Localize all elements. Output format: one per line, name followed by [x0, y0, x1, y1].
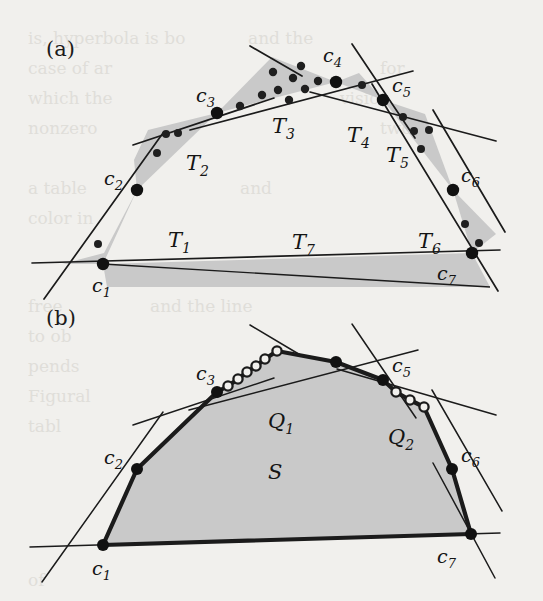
sample-point [410, 127, 418, 135]
vertex-label-c6: c6 [461, 164, 480, 190]
svg-text:and the: and the [248, 28, 313, 48]
region-label-T7: T7 [292, 230, 315, 258]
region-label-T6: T6 [418, 229, 441, 257]
region-label-T5: T5 [386, 143, 409, 171]
chain-point-q1 [242, 367, 251, 376]
sample-point [314, 77, 322, 85]
sample-point [301, 85, 309, 93]
sample-point [475, 239, 483, 247]
sample-point [461, 220, 469, 228]
sample-point [258, 91, 266, 99]
vertex-c5[interactable] [377, 94, 389, 106]
vertex-c1[interactable] [97, 258, 109, 270]
sample-point [285, 96, 293, 104]
sample-point [297, 62, 305, 70]
region-label-T3: T3 [272, 114, 295, 142]
svg-text:and the line: and the line [150, 296, 253, 316]
vertex-c7[interactable] [465, 528, 477, 540]
region-label-S: S [268, 460, 282, 484]
sample-point [417, 145, 425, 153]
vertex-c2[interactable] [131, 463, 143, 475]
vertex-label-c2: c2 [104, 167, 123, 193]
vertex-c4[interactable] [330, 356, 342, 368]
sample-point [236, 102, 244, 110]
vertex-c7[interactable] [466, 247, 478, 259]
region-label-T2: T2 [186, 151, 209, 179]
sample-point [399, 113, 407, 121]
svg-text:case of ar: case of ar [28, 58, 113, 78]
sample-point [274, 86, 282, 94]
sample-point [94, 240, 102, 248]
chain-point-q1 [251, 361, 260, 370]
region-T6-fill [453, 190, 496, 253]
svg-text:a table: a table [28, 178, 87, 198]
figure-page: is, hyperbola is bo and the case of ar f… [0, 0, 543, 601]
chain-point-q2 [391, 387, 400, 396]
region-label-T1: T1 [168, 228, 191, 256]
vertex-label-c6: c6 [461, 444, 480, 470]
svg-text:color in: color in [28, 208, 93, 228]
svg-text:nonzero: nonzero [28, 118, 98, 138]
chain-point-q1 [233, 374, 242, 383]
vertex-c1[interactable] [97, 539, 109, 551]
sample-point [289, 74, 297, 82]
vertex-label-c7: c7 [437, 545, 457, 571]
chain-point-q1 [260, 354, 269, 363]
chain-point-q2 [419, 402, 428, 411]
vertex-label-c3: c3 [196, 84, 215, 110]
svg-text:pends: pends [28, 356, 80, 376]
vertex-c5[interactable] [377, 374, 389, 386]
vertex-c6[interactable] [447, 184, 459, 196]
figure-svg: is, hyperbola is bo and the case of ar f… [0, 0, 543, 601]
region-T7-fill [103, 253, 490, 287]
region-label-T4: T4 [347, 123, 370, 151]
svg-text:and: and [240, 178, 272, 198]
sample-point [425, 126, 433, 134]
vertex-label-c1: c1 [92, 557, 111, 583]
panel-b: (b) c1 c2 c3 c5 c6 c7 Q1 Q2 S [30, 306, 502, 583]
svg-text:which the: which the [28, 88, 113, 108]
vertex-label-c3: c3 [196, 362, 215, 388]
vertex-c2[interactable] [131, 184, 143, 196]
chain-point-q1 [223, 381, 232, 390]
sample-point [358, 81, 366, 89]
panel-b-label: (b) [46, 306, 76, 330]
svg-text:tabl: tabl [28, 416, 61, 436]
sample-point [269, 68, 277, 76]
vertex-label-c2: c2 [104, 446, 123, 472]
chain-point-q2 [405, 395, 414, 404]
sample-point [162, 130, 170, 138]
vertex-label-c5: c5 [392, 354, 411, 380]
vertex-c6[interactable] [446, 463, 458, 475]
vertex-label-c5: c5 [392, 74, 411, 100]
panel-a-label: (a) [46, 37, 75, 61]
chain-point-q1 [272, 346, 281, 355]
svg-text:Figural: Figural [28, 386, 91, 406]
sample-point [174, 129, 182, 137]
sample-point [153, 149, 161, 157]
vertex-label-c4: c4 [323, 44, 342, 70]
vertex-c4[interactable] [330, 76, 342, 88]
